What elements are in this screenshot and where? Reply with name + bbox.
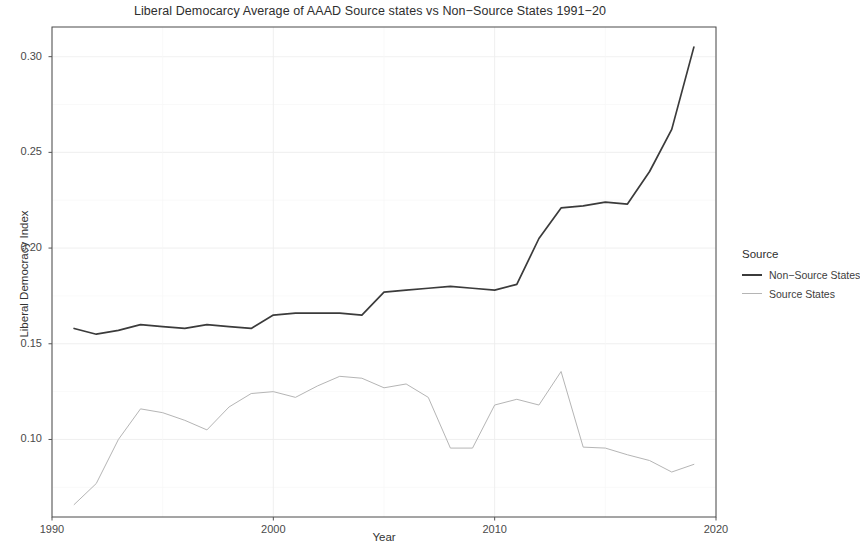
legend-label: Non−Source States: [769, 269, 860, 281]
legend-entries: Non−Source StatesSource States: [742, 269, 854, 300]
legend-key-line-icon: [742, 289, 762, 299]
legend-entry: Source States: [742, 288, 854, 300]
legend-title: Source: [742, 248, 854, 260]
legend-entry: Non−Source States: [742, 269, 854, 281]
legend: Source Non−Source StatesSource States: [742, 248, 854, 307]
legend-key-line-icon: [742, 270, 762, 280]
legend-label: Source States: [769, 288, 835, 300]
